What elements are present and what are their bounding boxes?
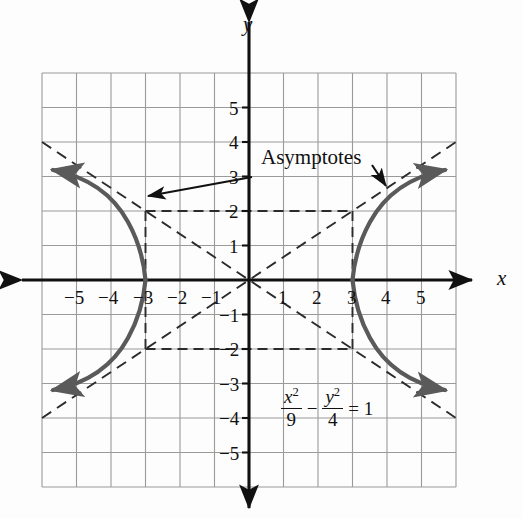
x-tick-label--5: −5	[64, 288, 84, 307]
x-tick-label--3: −3	[133, 288, 153, 307]
y-tick-label-3: 3	[229, 168, 239, 187]
axes	[22, 22, 472, 508]
equation-term-2-numerator: y2	[322, 386, 343, 409]
y-tick-label--5: −5	[219, 444, 239, 463]
graph-canvas	[0, 0, 523, 519]
y-tick-label--3: −3	[219, 375, 239, 394]
annotation-arrow-right	[372, 165, 386, 186]
equation-term-2-denominator: 4	[325, 409, 341, 430]
equation-right-hand-side: 1	[364, 399, 374, 418]
equation-term-1: x2 9	[281, 386, 302, 430]
y-tick-label--4: −4	[219, 409, 239, 428]
equation-operator: −	[306, 399, 319, 418]
y-tick-label-5: 5	[229, 99, 239, 118]
x-tick-label-2: 2	[312, 288, 322, 307]
equation-equals-sign: =	[347, 399, 360, 418]
right-branch-lower	[353, 280, 446, 390]
left-branch-upper	[53, 170, 146, 280]
y-tick-label--1: −1	[219, 306, 239, 325]
equation-term-1-numerator: x2	[281, 386, 302, 409]
hyperbola-figure: −5 −4 −3 −2 −1 1 2 3 4 5 5 4 3 2 1 −1 −2…	[0, 0, 523, 519]
x-axis-label: x	[497, 268, 506, 289]
y-tick-label-4: 4	[229, 133, 239, 152]
x-tick-label--2: −2	[167, 288, 187, 307]
x-tick-label-5: 5	[416, 288, 426, 307]
right-branch-upper	[353, 170, 446, 280]
asymptotes-annotation-label: Asymptotes	[261, 147, 361, 168]
y-tick-label--2: −2	[219, 340, 239, 359]
equation-term-2: y2 4	[322, 386, 343, 430]
equation-term-2-exponent: 2	[334, 385, 340, 399]
x-tick-label-1: 1	[278, 288, 288, 307]
equation-label: x2 9 − y2 4 = 1	[281, 386, 373, 430]
asymptote-annotation-arrows	[148, 165, 386, 196]
y-tick-label-1: 1	[229, 237, 239, 256]
equation-term-1-exponent: 2	[292, 385, 298, 399]
x-tick-label-4: 4	[381, 288, 391, 307]
equation-term-1-denominator: 9	[284, 409, 300, 430]
y-axis-label: y	[243, 14, 252, 35]
x-tick-label--4: −4	[98, 288, 118, 307]
x-tick-label-3: 3	[347, 288, 357, 307]
y-tick-label-2: 2	[229, 202, 239, 221]
